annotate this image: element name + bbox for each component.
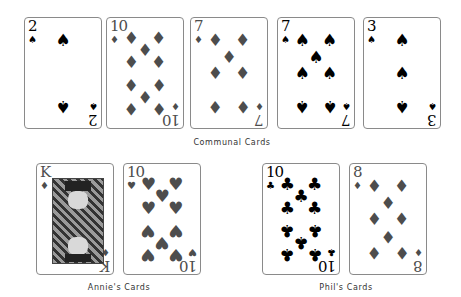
hearts-icon: ♥ bbox=[168, 175, 183, 192]
diamonds-icon: ♦ bbox=[124, 54, 139, 71]
clubs-icon: ♣ bbox=[307, 200, 322, 217]
spades-icon: ♠ bbox=[322, 32, 337, 49]
card-phil-2[interactable]: 8 ♦ 8 ♦♦♦♦♦♦♦♦♦ bbox=[349, 163, 427, 275]
card-communal-5[interactable]: 3 ♠ 3 ♠♠♠♠ bbox=[363, 17, 441, 129]
card-communal-2[interactable]: 10 ♦ 10 ♦♦♦♦♦♦♦♦♦♦♦ bbox=[106, 17, 184, 129]
card-communal-4[interactable]: 7 ♠ 7 ♠♠♠♠♠♠♠♠ bbox=[277, 17, 355, 129]
spades-icon: ♠ bbox=[55, 98, 70, 115]
diamonds-icon: ♦ bbox=[110, 35, 119, 45]
phil-cards-label: Phil's Cards bbox=[319, 283, 372, 292]
rank-label-bottom: 7 bbox=[342, 112, 351, 127]
hearts-icon: ♥ bbox=[168, 200, 183, 217]
diamonds-icon: ♦ bbox=[124, 100, 139, 117]
hearts-icon: ♥ bbox=[127, 181, 136, 191]
hearts-icon: ♥ bbox=[188, 247, 197, 257]
diamonds-icon: ♦ bbox=[151, 100, 166, 117]
spades-icon: ♠ bbox=[89, 101, 98, 111]
diamonds-icon: ♦ bbox=[151, 29, 166, 46]
hearts-icon: ♥ bbox=[168, 222, 183, 239]
spades-icon: ♠ bbox=[394, 32, 409, 49]
diamonds-icon: ♦ bbox=[171, 101, 180, 111]
diamonds-icon: ♦ bbox=[414, 247, 423, 257]
diamonds-icon: ♦ bbox=[208, 65, 223, 82]
spades-icon: ♠ bbox=[394, 98, 409, 115]
diamonds-icon: ♦ bbox=[394, 211, 409, 228]
spades-icon: ♠ bbox=[367, 35, 376, 45]
king-face-illustration bbox=[52, 178, 104, 264]
rank-label-bottom: 3 bbox=[428, 112, 437, 127]
rank-label: 8 bbox=[353, 165, 362, 180]
diamonds-icon: ♦ bbox=[194, 35, 203, 45]
diamonds-icon: ♦ bbox=[208, 98, 223, 115]
card-phil-1[interactable]: 10 ♣ 10 ♣♣♣♣♣♣♣♣♣♣♣ bbox=[262, 163, 340, 275]
rank-label: 7 bbox=[281, 19, 290, 34]
clubs-icon: ♣ bbox=[307, 246, 322, 263]
clubs-icon: ♣ bbox=[327, 247, 336, 257]
rank-label: 3 bbox=[367, 19, 376, 34]
clubs-icon: ♣ bbox=[307, 222, 322, 239]
rank-label: 7 bbox=[194, 19, 203, 34]
spades-icon: ♠ bbox=[28, 35, 37, 45]
clubs-icon: ♣ bbox=[280, 246, 295, 263]
diamonds-icon: ♦ bbox=[235, 98, 250, 115]
diamonds-icon: ♦ bbox=[151, 54, 166, 71]
diamonds-icon: ♦ bbox=[394, 244, 409, 261]
diamonds-icon: ♦ bbox=[394, 178, 409, 195]
spades-icon: ♠ bbox=[394, 65, 409, 82]
spades-icon: ♠ bbox=[55, 32, 70, 49]
hearts-icon: ♥ bbox=[141, 246, 156, 263]
rank-label-bottom: 7 bbox=[255, 112, 264, 127]
rank-label: K bbox=[40, 165, 50, 180]
clubs-icon: ♣ bbox=[293, 234, 308, 251]
card-communal-3[interactable]: 7 ♦ 7 ♦♦♦♦♦♦♦♦ bbox=[190, 17, 268, 129]
hearts-icon: ♥ bbox=[141, 200, 156, 217]
spades-icon: ♠ bbox=[295, 98, 310, 115]
diamonds-icon: ♦ bbox=[367, 244, 382, 261]
communal-cards-label: Communal Cards bbox=[193, 138, 270, 147]
hearts-icon: ♥ bbox=[168, 246, 183, 263]
spades-icon: ♠ bbox=[342, 101, 351, 111]
spades-icon: ♠ bbox=[322, 65, 337, 82]
diamonds-icon: ♦ bbox=[40, 181, 49, 191]
diamonds-icon: ♦ bbox=[235, 65, 250, 82]
rank-label-bottom: 8 bbox=[414, 258, 423, 273]
diamonds-icon: ♦ bbox=[367, 211, 382, 228]
clubs-icon: ♣ bbox=[280, 200, 295, 217]
spades-icon: ♠ bbox=[322, 98, 337, 115]
diamonds-icon: ♦ bbox=[380, 227, 395, 244]
card-annie-1[interactable]: K ♦ K ♦ bbox=[36, 163, 114, 275]
hearts-icon: ♥ bbox=[154, 234, 169, 251]
rank-label-bottom: 2 bbox=[89, 112, 98, 127]
clubs-icon: ♣ bbox=[266, 181, 275, 191]
diamonds-icon: ♦ bbox=[235, 32, 250, 49]
diamonds-icon: ♦ bbox=[151, 76, 166, 93]
card-annie-2[interactable]: 10 ♥ 10 ♥♥♥♥♥♥♥♥♥♥♥ bbox=[123, 163, 201, 275]
spades-icon: ♠ bbox=[428, 101, 437, 111]
diamonds-icon: ♦ bbox=[137, 88, 152, 105]
spades-icon: ♠ bbox=[281, 35, 290, 45]
diamonds-icon: ♦ bbox=[353, 181, 362, 191]
card-communal-1[interactable]: 2 ♠ 2 ♠♠♠ bbox=[24, 17, 102, 129]
rank-label: 2 bbox=[28, 19, 37, 34]
annie-cards-label: Annie's Cards bbox=[88, 283, 150, 292]
spades-icon: ♠ bbox=[295, 65, 310, 82]
diamonds-icon: ♦ bbox=[255, 101, 264, 111]
clubs-icon: ♣ bbox=[307, 175, 322, 192]
